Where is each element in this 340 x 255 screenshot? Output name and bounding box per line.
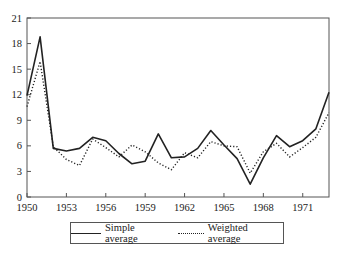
legend-item-weighted: Weighted average xyxy=(178,222,283,244)
x-tick-label: 1956 xyxy=(95,202,116,213)
y-tick-label: 21 xyxy=(12,13,23,24)
legend: Simple average Weighted average xyxy=(70,222,284,244)
line-chart: 036912151821 195019531956195919621965196… xyxy=(0,0,340,220)
x-tick-label: 1971 xyxy=(292,202,313,213)
plot-frame xyxy=(27,18,329,197)
legend-label-weighted: Weighted average xyxy=(208,222,283,244)
y-tick-label: 9 xyxy=(17,115,22,126)
x-tick-label: 1968 xyxy=(253,202,274,213)
y-tick-label: 15 xyxy=(12,64,23,75)
y-tick-label: 3 xyxy=(17,166,22,177)
dotted-line-icon xyxy=(178,233,204,234)
legend-label-simple: Simple average xyxy=(105,222,170,244)
weighted-average-line xyxy=(27,62,329,174)
legend-item-simple: Simple average xyxy=(71,222,170,244)
y-tick-label: 0 xyxy=(17,192,22,203)
y-tick-label: 18 xyxy=(12,38,23,49)
solid-line-icon xyxy=(71,233,101,234)
x-tick-label: 1962 xyxy=(174,202,195,213)
x-axis: 19501953195619591962196519681971 xyxy=(17,193,314,213)
x-tick-label: 1959 xyxy=(135,202,156,213)
x-tick-label: 1965 xyxy=(213,202,234,213)
y-tick-label: 6 xyxy=(17,140,22,151)
y-axis: 036912151821 xyxy=(12,13,32,203)
y-tick-label: 12 xyxy=(12,89,23,100)
x-tick-label: 1953 xyxy=(56,202,77,213)
x-tick-label: 1950 xyxy=(17,202,38,213)
series-lines xyxy=(27,37,329,184)
